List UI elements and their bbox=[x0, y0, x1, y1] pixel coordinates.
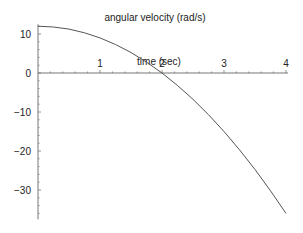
x-axis-label: time (sec) bbox=[137, 56, 181, 67]
axes bbox=[38, 24, 288, 219]
x-tick-label: 1 bbox=[97, 58, 103, 69]
y-tick-label: 0 bbox=[25, 68, 31, 79]
chart-title: angular velocity (rad/s) bbox=[104, 12, 205, 23]
ticks: 1234100−10−20−30 bbox=[14, 26, 289, 213]
x-tick-label: 3 bbox=[221, 58, 227, 69]
chart: angular velocity (rad/s) 1234100−10−20−3… bbox=[0, 0, 303, 233]
y-tick-label: −10 bbox=[14, 107, 31, 118]
y-tick-label: −30 bbox=[14, 185, 31, 196]
data-line bbox=[38, 26, 286, 213]
x-tick-label: 4 bbox=[283, 58, 289, 69]
y-tick-label: −20 bbox=[14, 146, 31, 157]
y-tick-label: 10 bbox=[20, 29, 32, 40]
